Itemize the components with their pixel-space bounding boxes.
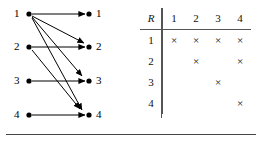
table-row: 4 × [140, 93, 251, 114]
bottom-horizontal-rule [6, 134, 256, 135]
figure-container: 1 2 3 4 1 2 3 4 R 1 2 3 4 1 [0, 0, 262, 143]
left-node-3 [26, 78, 31, 83]
right-node-label-4: 4 [96, 109, 102, 120]
matrix-col-header-4: 4 [229, 8, 251, 30]
matrix-cell-2-3 [207, 51, 229, 72]
left-node-label-2: 2 [14, 41, 20, 52]
right-node-4 [86, 112, 91, 117]
table-row: 2 × × [140, 51, 251, 72]
table-row: 3 × [140, 72, 251, 93]
matrix-cell-3-4 [229, 72, 251, 93]
right-node-label-1: 1 [96, 8, 102, 19]
left-node-4 [26, 112, 31, 117]
left-node-2 [26, 44, 31, 49]
matrix-cell-2-2: × [185, 51, 207, 72]
matrix-cell-4-4: × [229, 93, 251, 114]
relation-digraph: 1 2 3 4 1 2 3 4 [0, 0, 131, 132]
right-node-1 [86, 11, 91, 16]
left-node-1 [26, 11, 31, 16]
right-node-3 [86, 78, 91, 83]
left-node-label-3: 3 [14, 75, 20, 86]
matrix-row-header-2: 2 [140, 51, 163, 72]
matrix-cell-3-3: × [207, 72, 229, 93]
edge-1-to-2 [32, 16, 84, 43]
matrix-cell-3-1 [163, 72, 186, 93]
matrix-cell-4-1 [163, 93, 186, 114]
right-node-label-2: 2 [96, 41, 102, 52]
edge-2-to-4 [32, 50, 80, 109]
matrix-row-header-3: 3 [140, 72, 163, 93]
table-row: 1 × × × × [140, 30, 251, 52]
right-node-2 [86, 44, 91, 49]
matrix-cell-3-2 [185, 72, 207, 93]
matrix-table: R 1 2 3 4 1 × × × × 2 × [140, 8, 251, 114]
matrix-cell-4-3 [207, 93, 229, 114]
matrix-col-header-1: 1 [163, 8, 186, 30]
matrix-corner-label: R [140, 8, 163, 30]
left-node-label-4: 4 [14, 109, 20, 120]
matrix-col-header-3: 3 [207, 8, 229, 30]
matrix-row-header-1: 1 [140, 30, 163, 52]
matrix-cell-2-1 [163, 51, 186, 72]
matrix-row-header-4: 4 [140, 93, 163, 114]
matrix-cell-4-2 [185, 93, 207, 114]
matrix-cell-2-4: × [229, 51, 251, 72]
matrix-cell-1-2: × [185, 30, 207, 52]
matrix-cell-1-3: × [207, 30, 229, 52]
right-node-label-3: 3 [96, 75, 102, 86]
edge-1-to-4 [32, 18, 82, 110]
matrix-cell-1-4: × [229, 30, 251, 52]
matrix-cell-1-1: × [163, 30, 186, 52]
matrix-col-header-2: 2 [185, 8, 207, 30]
matrix-header-row: R 1 2 3 4 [140, 8, 251, 30]
relation-matrix: R 1 2 3 4 1 × × × × 2 × [131, 0, 262, 132]
left-node-label-1: 1 [14, 8, 20, 19]
